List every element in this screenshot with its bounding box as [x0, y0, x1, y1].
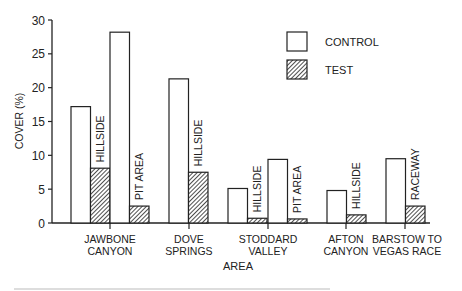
- y-tick-label: 5: [38, 183, 45, 197]
- y-tick-label: 20: [32, 81, 46, 95]
- category-label: JAWBONE: [84, 233, 136, 245]
- legend-swatch-test: [287, 60, 307, 79]
- category-label: CANYON: [324, 245, 369, 257]
- bar-test: [91, 168, 111, 223]
- category-label: DOVE: [174, 233, 204, 245]
- category-label: AFTON: [328, 233, 363, 245]
- bar-control: [71, 107, 91, 223]
- y-axis-label: COVER (%): [13, 93, 25, 150]
- bar-test: [288, 219, 308, 223]
- y-tick-label: 25: [32, 47, 46, 61]
- category-label: CANYON: [88, 245, 133, 257]
- bar-control: [169, 79, 189, 223]
- bar-annotation: HILLSIDE: [350, 162, 362, 209]
- bar-control: [386, 159, 406, 223]
- bar-test: [248, 218, 268, 223]
- bar-annotation: PIT AREA: [133, 153, 145, 200]
- legend: CONTROLTEST: [287, 32, 379, 79]
- bar-test: [347, 215, 367, 223]
- category-label: STODDARD: [239, 233, 298, 245]
- bar-annotation: RACEWAY: [409, 148, 421, 200]
- bars: [71, 32, 425, 223]
- bar-control: [110, 32, 130, 223]
- bar-control: [228, 188, 248, 223]
- category-label: VEGAS RACE: [373, 245, 441, 257]
- x-axis-label: AREA: [223, 260, 254, 272]
- bar-annotation: PIT AREA: [291, 166, 303, 213]
- bar-annotation: HILLSIDE: [94, 116, 106, 163]
- category-label: VALLEY: [249, 245, 288, 257]
- bar-test: [189, 172, 209, 223]
- y-tick-label: 15: [32, 115, 46, 129]
- bar-annotation: HILLSIDE: [251, 166, 263, 213]
- bar-control: [268, 159, 288, 223]
- bar-control: [327, 191, 347, 223]
- y-tick-label: 10: [32, 149, 46, 163]
- bar-annotation: HILLSIDE: [192, 120, 204, 167]
- chart: 051015202530COVER (%)AREA HILLSIDEPIT AR…: [0, 0, 462, 291]
- legend-label: CONTROL: [325, 36, 379, 48]
- category-label: BARSTOW TO: [372, 233, 442, 245]
- category-label: SPRINGS: [165, 245, 212, 257]
- bar-test: [130, 206, 150, 223]
- bar-test: [406, 206, 426, 223]
- y-tick-label: 0: [38, 217, 45, 231]
- y-tick-label: 30: [32, 14, 46, 28]
- legend-swatch-control: [287, 32, 307, 51]
- legend-label: TEST: [325, 64, 353, 76]
